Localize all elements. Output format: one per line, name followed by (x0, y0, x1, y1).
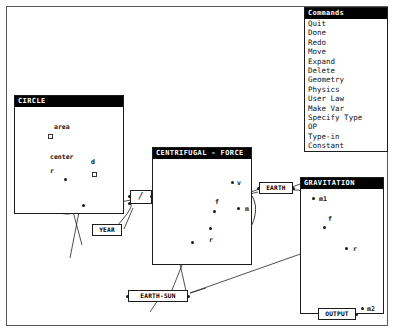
node-earth-input-port[interactable] (257, 187, 260, 190)
gravitation-label-radius: r (353, 246, 357, 253)
menu-item-delete[interactable]: Delete (305, 66, 387, 75)
menu-item-specify-type[interactable]: Specify Type (305, 113, 387, 122)
menu-item-geometry[interactable]: Geometry (305, 75, 387, 84)
node-output-label: OUTPUT (325, 310, 349, 317)
window-circle-title: CIRCLE (15, 96, 123, 107)
node-earth-sun-output-port[interactable] (187, 295, 190, 298)
centrifugal-node-origin[interactable] (191, 241, 194, 244)
window-gravitation-body[interactable]: m1 f r m2 (301, 189, 383, 313)
divide-operator-box[interactable]: / (130, 190, 152, 204)
gravitation-node-radius[interactable] (345, 247, 348, 250)
menu-item-done[interactable]: Done (305, 28, 387, 37)
circle-label-radius: r (50, 168, 54, 175)
commands-menu[interactable]: Commands Quit Done Redo Move Expand Dele… (304, 7, 388, 152)
menu-item-move[interactable]: Move (305, 47, 387, 56)
menu-item-quit[interactable]: Quit (305, 19, 387, 28)
menu-item-make-var[interactable]: Make Var (305, 104, 387, 113)
circle-node-area[interactable] (48, 134, 53, 139)
node-year-label: YEAR (99, 226, 115, 233)
centrifugal-node-radius[interactable] (209, 227, 212, 230)
application-root: Commands Quit Done Redo Move Expand Dele… (0, 0, 394, 332)
menu-item-user-law[interactable]: User Law (305, 94, 387, 103)
node-earth-sun-label: EARTH-SUN (140, 292, 175, 299)
divide-operator-label: / (138, 191, 143, 201)
gravitation-label-mass2: m2 (367, 306, 375, 313)
node-earth-label: EARTH (266, 184, 286, 191)
window-gravitation-title: GRAVITATION (301, 178, 383, 189)
divide-op-output-port[interactable] (150, 195, 153, 198)
menu-item-redo[interactable]: Redo (305, 38, 387, 47)
window-circle[interactable]: CIRCLE area center d r c (14, 95, 124, 214)
centrifugal-label-radius: r (209, 237, 213, 244)
commands-menu-title: Commands (305, 8, 387, 19)
circle-label-area: area (54, 124, 70, 131)
circle-label-circumference: c (87, 212, 91, 213)
node-output-port[interactable] (355, 313, 358, 316)
gravitation-node-mass2[interactable] (361, 307, 364, 310)
window-centrifugal-force-title: CENTRIFUGAL - FORCE (153, 148, 251, 159)
node-earth-output-port[interactable] (292, 187, 295, 190)
centrifugal-node-mass[interactable] (237, 207, 240, 210)
gravitation-node-mass1[interactable] (312, 197, 315, 200)
centrifugal-node-velocity[interactable] (231, 181, 234, 184)
circle-node-circumference[interactable] (82, 204, 85, 207)
gravitation-label-force: f (328, 216, 332, 223)
node-year[interactable]: YEAR (92, 224, 122, 236)
gravitation-label-mass1: m1 (319, 196, 327, 203)
node-earth[interactable]: EARTH (259, 182, 293, 194)
divide-op-input-port[interactable] (128, 195, 131, 198)
centrifugal-label-mass: m (245, 206, 249, 213)
divide-op-input-port-2[interactable] (128, 202, 131, 205)
centrifugal-node-force[interactable] (213, 210, 216, 213)
window-gravitation[interactable]: GRAVITATION m1 f r m2 (300, 177, 384, 314)
menu-item-op[interactable]: OP (305, 122, 387, 131)
menu-item-physics[interactable]: Physics (305, 85, 387, 94)
centrifugal-label-velocity: v (237, 180, 241, 187)
window-circle-body[interactable]: area center d r c (15, 107, 123, 213)
menu-item-constant[interactable]: Constant (305, 141, 387, 150)
circle-node-center[interactable] (64, 178, 67, 181)
node-earth-sun-input-port[interactable] (126, 295, 129, 298)
circle-node-diameter[interactable] (92, 172, 97, 177)
menu-item-type-in[interactable]: Type-in (305, 132, 387, 141)
circle-label-diameter: d (91, 159, 95, 166)
gravitation-node-force[interactable] (323, 226, 326, 229)
circle-label-center: center (50, 154, 73, 161)
window-centrifugal-force-body[interactable]: v f m r (153, 159, 251, 264)
node-output[interactable]: OUTPUT (318, 308, 356, 320)
menu-item-expand[interactable]: Expand (305, 57, 387, 66)
window-centrifugal-force[interactable]: CENTRIFUGAL - FORCE v f m r (152, 147, 252, 265)
centrifugal-label-force: f (215, 199, 219, 206)
node-earth-sun[interactable]: EARTH-SUN (128, 290, 188, 302)
